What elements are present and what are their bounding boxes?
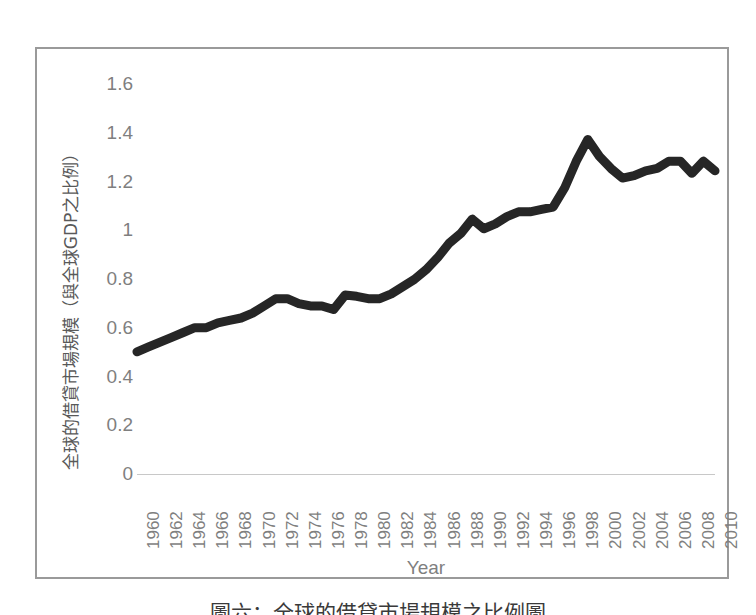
y-tick-label: 0.8 xyxy=(89,268,133,290)
x-tick-label: 2010 xyxy=(722,511,742,549)
x-tick-label: 1996 xyxy=(560,511,580,549)
x-tick-label: 1972 xyxy=(283,511,303,549)
x-tick-label: 1994 xyxy=(537,511,557,549)
line-chart-svg xyxy=(137,84,715,470)
x-tick-label: 2004 xyxy=(653,511,673,549)
x-tick-label: 1964 xyxy=(190,511,210,549)
data-series-line xyxy=(137,139,715,351)
x-tick-label: 1992 xyxy=(514,511,534,549)
x-tick-label: 2000 xyxy=(606,511,626,549)
y-tick-label: 1 xyxy=(89,219,133,241)
y-tick-label: 0.2 xyxy=(89,414,133,436)
plot-area xyxy=(137,84,715,470)
y-tick-label: 0.6 xyxy=(89,317,133,339)
x-tick-label: 1966 xyxy=(213,511,233,549)
x-tick-label: 2008 xyxy=(699,511,719,549)
x-tick-label: 1984 xyxy=(421,511,441,549)
x-tick-label: 1976 xyxy=(329,511,349,549)
x-tick-label: 1968 xyxy=(236,511,256,549)
x-axis-tick-labels: 1960196219641966196819701972197419761978… xyxy=(137,477,715,555)
x-tick-label: 1986 xyxy=(445,511,465,549)
y-tick-label: 1.4 xyxy=(89,122,133,144)
x-tick-label: 1962 xyxy=(167,511,187,549)
x-tick-label: 1982 xyxy=(398,511,418,549)
y-tick-label: 0 xyxy=(89,463,133,485)
x-tick-label: 1960 xyxy=(144,511,164,549)
chart-area: 全球的借貸市場規模（與全球GDP之比例） 1.61.41.210.80.60.4… xyxy=(37,49,727,577)
x-tick-label: 1974 xyxy=(306,511,326,549)
x-axis-line xyxy=(137,474,715,475)
x-axis-title: Year xyxy=(137,557,715,579)
x-tick-label: 1988 xyxy=(468,511,488,549)
y-axis-tick-labels: 1.61.41.210.80.60.40.20 xyxy=(81,49,133,577)
y-tick-label: 1.2 xyxy=(89,171,133,193)
x-tick-label: 1998 xyxy=(583,511,603,549)
x-tick-label: 2002 xyxy=(630,511,650,549)
x-tick-label: 1970 xyxy=(260,511,280,549)
y-tick-label: 1.6 xyxy=(89,73,133,95)
x-tick-label: 1978 xyxy=(352,511,372,549)
y-axis-title: 全球的借貸市場規模（與全球GDP之比例） xyxy=(57,28,82,588)
y-tick-label: 0.4 xyxy=(89,366,133,388)
x-tick-label: 2006 xyxy=(676,511,696,549)
x-tick-label: 1980 xyxy=(375,511,395,549)
x-tick-label: 1990 xyxy=(491,511,511,549)
figure-frame: 全球的借貸市場規模（與全球GDP之比例） 1.61.41.210.80.60.4… xyxy=(35,47,729,579)
figure-caption: 圖六：全球的借貸市場規模之比例圖 xyxy=(0,596,756,615)
